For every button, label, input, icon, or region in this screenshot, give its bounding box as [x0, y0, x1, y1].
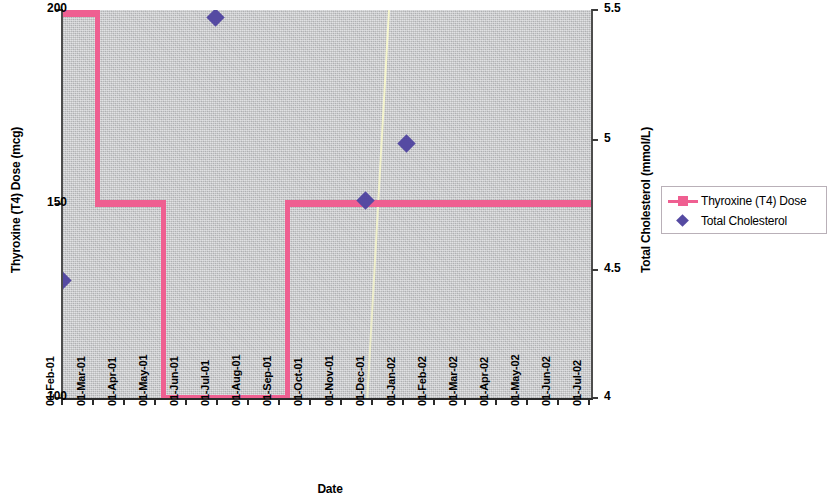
x-tick-label: 01-Sep-01 [261, 356, 273, 406]
legend-entry-label: Thyroxine (T4) Dose [701, 194, 807, 208]
y-right-tick-label: 5 [604, 131, 611, 145]
y-right-axis-line [591, 9, 593, 400]
chart-container: 200 150 100 5.5 5 4.5 4 01-Feb-01 01-Mar… [0, 0, 833, 501]
x-tick-mark [309, 400, 311, 405]
x-tick-mark [402, 400, 404, 405]
legend-diamond-icon [668, 214, 698, 228]
y-left-tick-label: 200 [47, 1, 67, 15]
x-tick-label: 01-Jun-01 [168, 356, 180, 406]
y-right-tick-label: 4 [604, 389, 611, 403]
y-left-tick-label: 150 [47, 195, 67, 209]
x-tick-mark [464, 400, 466, 405]
x-tick-label: 01-Aug-01 [230, 355, 242, 406]
x-tick-label: 01-Oct-01 [292, 358, 304, 406]
x-tick-label: 01-Mar-01 [75, 356, 87, 406]
x-tick-label: 01-May-01 [137, 355, 149, 406]
dose-step-segment-150a [95, 200, 165, 207]
x-tick-label: 01-Jun-02 [540, 356, 552, 406]
dose-step-drop-200-150 [95, 10, 100, 204]
x-tick-label: 01-May-02 [509, 355, 521, 406]
x-tick-mark [588, 400, 590, 405]
x-tick-mark [216, 400, 218, 405]
x-tick-label: 01-Jul-01 [199, 360, 211, 406]
x-tick-mark [340, 400, 342, 405]
x-tick-label: 01-Jan-02 [385, 357, 397, 406]
dose-step-segment-150b [285, 200, 592, 207]
y-right-tick-mark [592, 269, 598, 271]
x-tick-label: 01-Nov-01 [323, 355, 335, 406]
y-right-axis-title: Total Cholesterol (mmol/L) [639, 100, 653, 300]
x-tick-label: 01-Dec-01 [354, 356, 366, 406]
x-tick-mark [433, 400, 435, 405]
legend-line-square-icon [668, 194, 698, 208]
y-right-tick-mark [592, 397, 598, 399]
x-tick-label: 01-Apr-02 [478, 357, 490, 406]
y-right-tick-mark [592, 139, 598, 141]
x-tick-mark [61, 400, 63, 405]
dose-step-drop-150-100 [161, 200, 166, 398]
dose-step-rise-100-150 [285, 200, 290, 398]
y-right-tick-mark [592, 9, 598, 11]
x-tick-label: 01-Mar-02 [447, 356, 459, 406]
x-tick-label: 01-Apr-01 [106, 357, 118, 406]
x-tick-mark [278, 400, 280, 405]
x-tick-label: 01-Feb-01 [44, 356, 56, 406]
x-tick-mark [154, 400, 156, 405]
x-tick-mark [247, 400, 249, 405]
x-tick-label: 01-Feb-02 [416, 356, 428, 406]
legend-entry-thyroxine[interactable]: Thyroxine (T4) Dose [668, 191, 820, 211]
x-tick-mark [123, 400, 125, 405]
x-tick-mark [185, 400, 187, 405]
x-tick-mark [371, 400, 373, 405]
x-tick-mark [92, 400, 94, 405]
y-right-tick-label: 4.5 [604, 261, 621, 275]
x-axis-title: Date [250, 482, 410, 496]
dose-step-segment-200 [62, 10, 98, 17]
plot-area [62, 10, 592, 399]
x-tick-mark [495, 400, 497, 405]
legend-entry-cholesterol[interactable]: Total Cholesterol [668, 211, 820, 231]
y-right-tick-label: 5.5 [604, 1, 621, 15]
chart-legend: Thyroxine (T4) Dose Total Cholesterol [661, 186, 827, 234]
x-tick-mark [526, 400, 528, 405]
y-left-axis-title: Thyroxine (T4) Dose (mcg) [9, 100, 23, 300]
legend-entry-label: Total Cholesterol [701, 214, 787, 228]
x-tick-mark [557, 400, 559, 405]
x-tick-label: 01-Jul-02 [571, 360, 583, 406]
